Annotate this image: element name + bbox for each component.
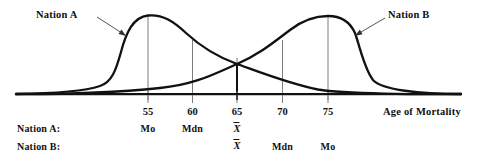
x-bar-glyph-a: X [233, 124, 240, 135]
curve-nation-b [16, 16, 461, 94]
figure-root: Nation A Nation B 55 60 65 70 75 Age of … [0, 0, 477, 164]
axis-tick-label-75: 75 [323, 107, 334, 118]
curve-nation-a [16, 15, 461, 94]
x-bar-glyph-b: X [233, 141, 240, 152]
callout-label-nation-b: Nation B [388, 10, 430, 21]
callout-arrow-nation-a [119, 30, 127, 36]
axis-tick-label-65: 65 [232, 107, 243, 118]
stat-nation-a-mode: Mo [141, 124, 156, 134]
row-label-nation-b: Nation B: [17, 142, 60, 152]
axis-tick-label-60: 60 [187, 107, 198, 118]
stat-nation-b-mean: X [233, 141, 240, 152]
axis-tick-label-70: 70 [277, 107, 288, 118]
stat-nation-b-mode: Mo [321, 142, 336, 152]
stat-nation-a-mean: X [233, 124, 240, 135]
axis-title: Age of Mortality [383, 107, 461, 118]
stat-nation-b-median: Mdn [272, 142, 293, 152]
row-label-nation-a: Nation A: [17, 124, 60, 134]
stat-nation-a-median: Mdn [182, 124, 203, 134]
axis-tick-label-55: 55 [143, 107, 154, 118]
callout-label-nation-a: Nation A [36, 10, 78, 21]
